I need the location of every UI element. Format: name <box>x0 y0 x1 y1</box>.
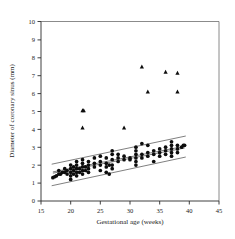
series-normal-fetuses <box>51 140 186 181</box>
circle-marker <box>176 151 180 155</box>
circle-marker <box>146 151 150 155</box>
circle-marker <box>87 163 91 167</box>
circle-marker <box>170 151 174 155</box>
circle-marker <box>146 144 150 148</box>
circle-marker <box>98 160 102 164</box>
circle-marker <box>116 160 120 164</box>
circle-marker <box>152 152 156 156</box>
circle-marker <box>75 160 79 164</box>
triangle-marker <box>80 125 84 129</box>
chart-screenshot: 0 1 2 3 4 5 6 7 8 9 10 15 20 25 30 <box>0 0 235 239</box>
circle-marker <box>110 149 114 153</box>
y-tick-label-6: 6 <box>32 90 36 97</box>
y-tick-label-8: 8 <box>32 54 35 61</box>
circle-marker <box>87 160 91 164</box>
circle-marker <box>81 161 85 165</box>
circle-marker <box>104 156 108 160</box>
circle-marker <box>110 152 114 156</box>
circle-marker <box>152 149 156 153</box>
y-axis-ticks <box>38 22 42 202</box>
x-tick-label-35: 35 <box>156 207 163 214</box>
y-tick-label-4: 4 <box>32 126 36 133</box>
circle-marker <box>57 169 61 173</box>
x-tick-label-30: 30 <box>127 207 134 214</box>
circle-marker <box>98 163 102 167</box>
x-tick-label-45: 45 <box>216 207 223 214</box>
circle-marker <box>140 152 144 156</box>
y-tick-label-5: 5 <box>32 108 35 115</box>
circle-marker <box>140 142 144 146</box>
y-tick-label-0: 0 <box>32 197 35 204</box>
x-axis-ticks <box>41 201 219 205</box>
triangle-marker <box>122 125 126 129</box>
circle-marker <box>110 167 114 171</box>
scatter-plot: 0 1 2 3 4 5 6 7 8 9 10 15 20 25 30 <box>0 0 235 239</box>
y-tick-label-10: 10 <box>29 18 36 25</box>
circle-marker <box>93 161 97 165</box>
circle-marker <box>164 145 168 149</box>
y-tick-label-2: 2 <box>32 162 35 169</box>
circle-marker <box>65 172 69 176</box>
circle-marker <box>134 156 138 160</box>
series-affected-fetuses-outliers <box>80 64 179 129</box>
circle-marker <box>107 172 111 176</box>
circle-marker <box>134 160 138 164</box>
circle-marker <box>87 167 91 171</box>
circle-marker <box>81 172 85 176</box>
triangle-marker <box>140 64 144 68</box>
circle-marker <box>134 149 138 153</box>
y-axis-title: Diameter of coronary sinus (mm) <box>8 63 16 157</box>
x-axis-title: Gestational age (weeks) <box>96 218 164 226</box>
circle-marker <box>81 158 85 162</box>
circle-marker <box>170 140 174 144</box>
circle-marker <box>146 154 150 158</box>
circle-marker <box>158 147 162 151</box>
circle-marker <box>65 169 69 173</box>
circle-marker <box>164 152 168 156</box>
y-tick-label-7: 7 <box>32 72 36 79</box>
circle-marker <box>116 152 120 156</box>
circle-marker <box>140 156 144 160</box>
triangle-marker <box>175 90 179 94</box>
triangle-marker <box>175 71 179 75</box>
y-tick-label-9: 9 <box>32 36 35 43</box>
triangle-marker <box>146 90 150 94</box>
circle-marker <box>75 174 79 178</box>
circle-marker <box>134 145 138 149</box>
circle-marker <box>158 151 162 155</box>
circle-marker <box>152 160 156 164</box>
circle-marker <box>110 163 114 167</box>
circle-marker <box>170 144 174 148</box>
circle-marker <box>134 163 138 167</box>
y-axis-tick-labels: 0 1 2 3 4 5 6 7 8 9 10 <box>29 18 36 205</box>
y-tick-label-1: 1 <box>32 179 35 186</box>
circle-marker <box>122 154 126 158</box>
circle-marker <box>170 154 174 158</box>
circle-marker <box>75 163 79 167</box>
circle-marker <box>87 170 91 174</box>
x-axis-tick-labels: 15 20 25 30 35 40 45 <box>38 207 223 214</box>
circle-marker <box>98 154 102 158</box>
circle-marker <box>176 144 180 148</box>
circle-marker <box>164 149 168 153</box>
x-tick-label-15: 15 <box>38 207 45 214</box>
circle-marker <box>93 165 97 169</box>
circle-marker <box>128 156 132 160</box>
data-markers <box>51 64 186 181</box>
circle-marker <box>183 144 187 148</box>
x-tick-label-40: 40 <box>186 207 193 214</box>
circle-marker <box>158 154 162 158</box>
circle-marker <box>116 156 120 160</box>
x-tick-label-20: 20 <box>67 207 74 214</box>
circle-marker <box>93 156 97 160</box>
x-tick-label-25: 25 <box>97 207 104 214</box>
triangle-marker <box>164 70 168 74</box>
circle-marker <box>110 158 114 162</box>
y-tick-label-3: 3 <box>32 144 35 151</box>
circle-marker <box>122 158 126 162</box>
circle-marker <box>176 147 180 151</box>
circle-marker <box>134 152 138 156</box>
circle-marker <box>69 178 73 182</box>
circle-marker <box>98 169 102 173</box>
circle-marker <box>170 147 174 151</box>
